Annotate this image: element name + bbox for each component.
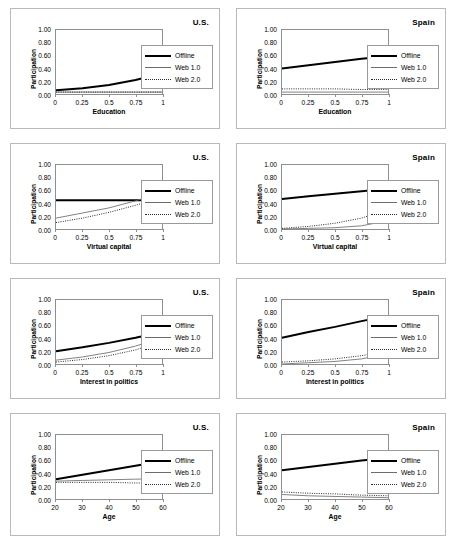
- x-tick-label: 0.5: [104, 234, 113, 241]
- legend-swatch-icon: [144, 51, 172, 59]
- legend-swatch-icon: [370, 321, 398, 329]
- legend-label: Offline: [172, 322, 195, 329]
- chart-panel: SpainParticipation0.000.200.400.600.801.…: [236, 8, 446, 129]
- x-tick-mark: [308, 94, 309, 97]
- legend-label: Web 2.0: [398, 346, 426, 353]
- x-tick-mark: [109, 364, 110, 367]
- y-tick-label: 0.40: [264, 65, 277, 72]
- legend-label: Web 2.0: [172, 481, 200, 488]
- x-axis-label: Interest in politics: [55, 378, 163, 385]
- legend-swatch-icon: [144, 345, 172, 353]
- x-tick-mark: [109, 499, 110, 502]
- y-tick-label: 0.20: [264, 78, 277, 85]
- x-tick-mark: [389, 364, 390, 367]
- legend-item-web1: Web 1.0: [370, 466, 435, 478]
- legend-swatch-icon: [370, 51, 398, 59]
- legend-item-web2: Web 2.0: [370, 478, 435, 490]
- x-axis-ticks: 00.250.50.751: [281, 232, 389, 242]
- legend-item-web2: Web 2.0: [370, 343, 435, 355]
- x-tick-mark: [136, 499, 137, 502]
- legend-label: Web 1.0: [398, 64, 426, 71]
- x-tick-label: 0.75: [356, 99, 369, 106]
- x-tick-mark: [362, 229, 363, 232]
- y-tick-label: 0.80: [264, 174, 277, 181]
- y-axis-ticks: 0.000.200.400.600.801.00: [253, 414, 277, 535]
- y-tick-label: 0.20: [38, 483, 51, 490]
- x-tick-label: 0: [279, 369, 283, 376]
- legend-item-offline: Offline: [370, 49, 435, 61]
- figure-panel-grid: U.S.Participation0.000.200.400.600.801.0…: [0, 0, 452, 542]
- y-tick-label: 0.00: [38, 497, 51, 504]
- legend-item-web1: Web 1.0: [144, 466, 209, 478]
- y-tick-label: 0.20: [38, 348, 51, 355]
- legend-item-offline: Offline: [144, 49, 209, 61]
- y-tick-label: 0.20: [38, 213, 51, 220]
- x-tick-mark: [136, 229, 137, 232]
- y-tick-label: 0.00: [38, 362, 51, 369]
- legend-label: Web 1.0: [398, 469, 426, 476]
- legend-item-offline: Offline: [370, 319, 435, 331]
- x-tick-label: 0.25: [302, 369, 315, 376]
- x-tick-mark: [163, 94, 164, 97]
- panel-cell-7: U.S.Participation0.000.200.400.600.801.0…: [0, 405, 226, 542]
- chart-panel: U.S.Participation0.000.200.400.600.801.0…: [10, 413, 220, 536]
- x-tick-mark: [281, 229, 282, 232]
- legend-swatch-icon: [144, 456, 172, 464]
- legend-label: Web 1.0: [398, 334, 426, 341]
- y-tick-label: 0.80: [38, 174, 51, 181]
- x-tick-mark: [281, 94, 282, 97]
- legend-swatch-icon: [144, 468, 172, 476]
- panel-title: Spain: [412, 423, 435, 432]
- x-tick-label: 1: [161, 99, 165, 106]
- y-tick-label: 0.40: [264, 200, 277, 207]
- legend-item-web1: Web 1.0: [144, 196, 209, 208]
- x-tick-mark: [82, 499, 83, 502]
- x-tick-mark: [163, 364, 164, 367]
- y-tick-label: 0.60: [264, 187, 277, 194]
- legend-label: Web 2.0: [398, 76, 426, 83]
- legend-label: Offline: [172, 187, 195, 194]
- legend-label: Offline: [398, 322, 421, 329]
- x-axis-label: Age: [55, 513, 163, 520]
- y-tick-label: 1.00: [264, 161, 277, 168]
- y-tick-label: 0.40: [38, 65, 51, 72]
- x-axis-label: Age: [281, 513, 389, 520]
- x-axis-ticks: 2030405060: [281, 502, 389, 512]
- x-tick-label: 0.25: [302, 99, 315, 106]
- x-tick-mark: [362, 499, 363, 502]
- legend-label: Web 2.0: [172, 76, 200, 83]
- chart-panel: U.S.Participation0.000.200.400.600.801.0…: [10, 278, 220, 399]
- x-tick-mark: [389, 499, 390, 502]
- y-tick-label: 0.40: [264, 335, 277, 342]
- x-tick-label: 50: [132, 504, 139, 511]
- legend-swatch-icon: [370, 333, 398, 341]
- y-tick-label: 1.00: [38, 431, 51, 438]
- chart-legend: OfflineWeb 1.0Web 2.0: [141, 450, 213, 494]
- y-tick-label: 0.20: [264, 213, 277, 220]
- x-tick-mark: [335, 229, 336, 232]
- panel-cell-6: SpainParticipation0.000.200.400.600.801.…: [226, 270, 452, 405]
- legend-swatch-icon: [370, 345, 398, 353]
- legend-swatch-icon: [144, 75, 172, 83]
- y-tick-label: 0.80: [38, 444, 51, 451]
- x-tick-mark: [163, 229, 164, 232]
- legend-swatch-icon: [370, 198, 398, 206]
- x-tick-label: 0.25: [76, 234, 89, 241]
- y-tick-label: 0.60: [38, 457, 51, 464]
- y-tick-label: 0.00: [264, 497, 277, 504]
- panel-title: U.S.: [193, 288, 209, 297]
- x-tick-label: 1: [387, 99, 391, 106]
- x-tick-mark: [82, 364, 83, 367]
- x-tick-mark: [109, 94, 110, 97]
- y-axis-ticks: 0.000.200.400.600.801.00: [27, 279, 51, 398]
- panel-cell-8: SpainParticipation0.000.200.400.600.801.…: [226, 405, 452, 542]
- y-tick-label: 0.00: [38, 92, 51, 99]
- x-tick-label: 0: [279, 99, 283, 106]
- x-tick-label: 0.5: [330, 369, 339, 376]
- legend-item-web1: Web 1.0: [144, 61, 209, 73]
- y-tick-label: 0.60: [38, 187, 51, 194]
- legend-label: Offline: [172, 52, 195, 59]
- chart-legend: OfflineWeb 1.0Web 2.0: [367, 315, 439, 359]
- x-tick-mark: [55, 94, 56, 97]
- panel-cell-2: SpainParticipation0.000.200.400.600.801.…: [226, 0, 452, 135]
